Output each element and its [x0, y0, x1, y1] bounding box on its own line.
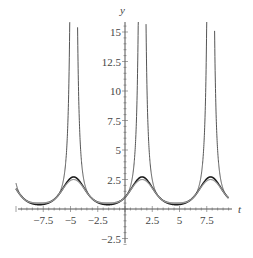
- x-axis-label: t: [238, 203, 242, 215]
- curves: [16, 22, 229, 205]
- x-tick-label: 2.5: [145, 214, 159, 226]
- y-tick-label: 5: [116, 144, 122, 156]
- y-tick-label: 7.5: [107, 115, 121, 127]
- y-axis-label: y: [119, 4, 125, 16]
- x-tick-label: −2.5: [88, 214, 108, 226]
- y-axis: −2.52.557.51012.515: [101, 22, 128, 245]
- y-tick-label: −2.5: [101, 233, 121, 245]
- x-tick-label: −7.5: [33, 214, 53, 226]
- x-tick-label: 5: [177, 214, 183, 226]
- y-tick-label: 10: [110, 85, 122, 97]
- chart: −7.5−5−2.52.557.5 −2.52.557.51012.515 t …: [0, 0, 253, 258]
- y-tick-label: 15: [110, 26, 122, 38]
- series-line: [16, 22, 229, 203]
- x-tick-label: 7.5: [200, 214, 214, 226]
- y-tick-label: 12.5: [102, 56, 122, 68]
- x-tick-label: −5: [65, 214, 77, 226]
- y-tick-label: 2.5: [107, 174, 121, 186]
